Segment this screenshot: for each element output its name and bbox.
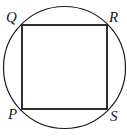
square-pqrs [22, 25, 107, 109]
vertex-label-p: P [7, 106, 17, 122]
diagram-canvas: Q R P S [0, 0, 127, 136]
vertex-label-r: R [108, 9, 118, 25]
vertex-label-q: Q [6, 9, 17, 25]
vertex-label-s: S [110, 108, 118, 124]
